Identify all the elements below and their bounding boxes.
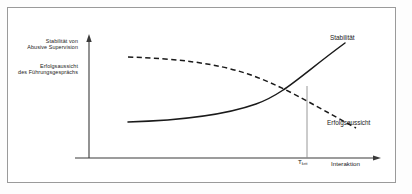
x-axis-title: Interaktion [331,160,360,167]
x-axis-tick-label-tkrit: Tkrit [298,158,307,166]
tick-label-subscript: krit [302,161,308,166]
series-line-stabilitaet [128,43,345,122]
series-line-erfolgsaussicht [128,57,356,128]
curve-label-stabilitaet: Stabilität [330,34,355,42]
y-axis [86,34,91,158]
y-axis-label-block-stability: Stabilität von Abusive Supervision [27,38,78,51]
y-axis-label-line-4: des Führungsgesprächs [18,69,78,75]
figure-container: Stabilität von Abusive Supervision Erfol… [0,0,412,194]
curve-label-erfolgsaussicht: Erfolgsaussicht [327,119,370,127]
y-axis-label-line-2: Abusive Supervision [27,44,78,50]
y-axis-label-block-prospect: Erfolgsaussicht des Führungsgesprächs [18,63,78,76]
